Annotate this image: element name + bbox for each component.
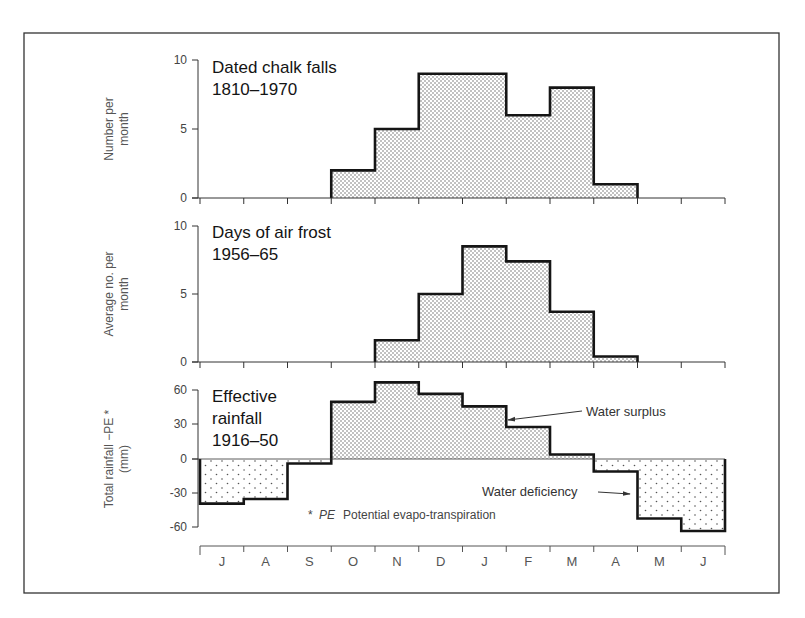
panel-chalk-falls: 10 5 0 Dated chalk falls 1810–1970 Numbe… [102, 53, 725, 205]
bar-7 [506, 115, 550, 198]
panel3-ytick-label-30: 30 [174, 417, 188, 431]
bar-7 [506, 427, 550, 459]
bar-9 [594, 184, 638, 198]
month-label-0: J [219, 554, 226, 569]
bar-5 [419, 294, 463, 362]
month-label-5: D [436, 554, 445, 569]
bar-6 [463, 74, 507, 198]
pe-footnote-text: Potential evapo-transpiration [343, 508, 496, 522]
bar-3 [331, 170, 375, 198]
bar-4 [375, 340, 419, 362]
bar-0 [200, 459, 244, 504]
bar-8 [550, 312, 594, 362]
panel1-ytick-label-0: 0 [180, 191, 187, 205]
svg-text:month: month [117, 277, 131, 310]
bar-4 [375, 129, 419, 198]
panel2-y-axis-label: Average no. per month [102, 251, 131, 336]
month-label-8: M [566, 554, 577, 569]
svg-text:(mm): (mm) [117, 445, 131, 473]
month-label-2: S [305, 554, 314, 569]
water-deficiency-label: Water deficiency [482, 484, 578, 499]
panel-effective-rainfall: 60 30 0 -30 -60 Effective rainfall 1916–… [102, 382, 725, 534]
pe-footnote-abbrev: PE [319, 508, 336, 522]
panel3-ytick-label-0: 0 [180, 452, 187, 466]
bar-5 [419, 74, 463, 198]
panel1-x-ticks [200, 198, 725, 204]
panel2-title-line2: 1956–65 [212, 245, 278, 264]
panel3-title-line2: rainfall [212, 409, 262, 428]
panel3-ytick-label-m60: -60 [170, 520, 188, 534]
panel2-title-line1: Days of air frost [212, 223, 331, 242]
panel1-ytick-label-5: 5 [180, 122, 187, 136]
panel2-ytick-label-10: 10 [174, 219, 188, 233]
panel3-y-axis-label: Total rainfall −PE * (mm) [102, 409, 131, 508]
month-label-3: O [348, 554, 358, 569]
month-label-11: J [700, 554, 707, 569]
month-label-10: M [654, 554, 665, 569]
svg-text:Average no. per: Average no. per [102, 251, 116, 336]
panel1-bars [331, 74, 637, 198]
panel2-x-ticks [200, 362, 725, 368]
panel2-ytick-label-5: 5 [180, 287, 187, 301]
panel1-ytick-label-10: 10 [174, 53, 188, 67]
water-surplus-label: Water surplus [586, 404, 666, 419]
panel-air-frost: 10 5 0 Days of air frost 1956–65 Average… [102, 219, 725, 369]
water-deficiency-arrow [598, 492, 630, 494]
svg-text:Total rainfall −PE *: Total rainfall −PE * [102, 409, 116, 508]
bar-10 [638, 459, 682, 518]
pe-footnote-star: * [308, 508, 313, 522]
bar-4 [375, 382, 419, 459]
bar-9 [594, 459, 638, 472]
panel1-title-line2: 1810–1970 [212, 80, 297, 99]
panel3-title-line1: Effective [212, 387, 277, 406]
figure: 10 5 0 Dated chalk falls 1810–1970 Numbe… [0, 0, 805, 618]
panel2-ytick-label-0: 0 [180, 355, 187, 369]
bar-3 [331, 402, 375, 459]
svg-text:Number per: Number per [102, 97, 116, 160]
bar-6 [463, 246, 507, 362]
month-label-7: F [524, 554, 532, 569]
bar-5 [419, 394, 463, 459]
month-label-6: J [481, 554, 488, 569]
bar-6 [463, 406, 507, 459]
water-surplus-arrow [508, 411, 582, 420]
panel2-bars [375, 246, 638, 362]
panel3-ytick-label-m30: -30 [170, 486, 188, 500]
month-axis: JASONDJFMAMJ [200, 546, 725, 569]
bar-8 [550, 88, 594, 198]
month-label-1: A [261, 554, 270, 569]
bar-7 [506, 261, 550, 362]
bar-1 [244, 459, 288, 499]
bar-11 [681, 459, 725, 531]
panel3-ytick-label-60: 60 [174, 383, 188, 397]
month-label-9: A [611, 554, 620, 569]
panel3-title-line3: 1916–50 [212, 431, 278, 450]
month-label-4: N [392, 554, 401, 569]
panel1-title-line1: Dated chalk falls [212, 58, 337, 77]
svg-text:month: month [117, 112, 131, 145]
panel1-y-axis-label: Number per month [102, 97, 131, 160]
